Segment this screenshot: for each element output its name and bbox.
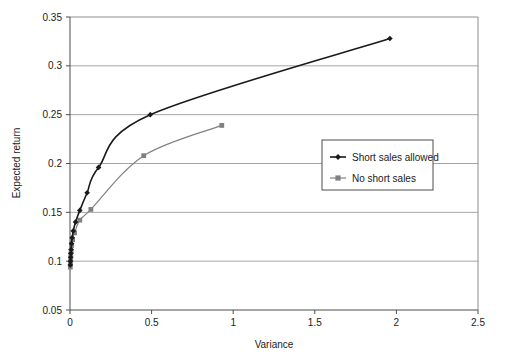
x-tick-label: 2	[394, 317, 400, 328]
y-tick-label: 0.15	[43, 207, 63, 218]
efficient-frontier-chart: 0.050.10.150.20.250.30.35 00.511.522.5 V…	[0, 0, 507, 362]
x-tick-label: 1	[230, 317, 236, 328]
chart-canvas: 0.050.10.150.20.250.30.35 00.511.522.5 V…	[0, 0, 507, 362]
legend-label: Short sales allowed	[352, 152, 439, 163]
data-point-square-icon	[335, 175, 340, 180]
x-tick-label: 0	[67, 317, 73, 328]
y-tick-label: 0.1	[48, 256, 62, 267]
x-tick-label: 0.5	[145, 317, 159, 328]
data-point-square-icon	[77, 218, 82, 223]
x-axis-title: Variance	[255, 339, 294, 350]
y-tick-label: 0.25	[43, 109, 63, 120]
x-tick-label: 1.5	[308, 317, 322, 328]
y-tick-label: 0.35	[43, 12, 63, 23]
data-point-square-icon	[88, 207, 93, 212]
legend-label: No short sales	[352, 173, 416, 184]
x-tick-label: 2.5	[471, 317, 485, 328]
data-point-square-icon	[141, 153, 146, 158]
y-tick-label: 0.05	[43, 305, 63, 316]
y-tick-label: 0.2	[48, 158, 62, 169]
y-axis-title: Expected return	[11, 128, 22, 199]
data-point-square-icon	[219, 123, 224, 128]
y-tick-label: 0.3	[48, 60, 62, 71]
